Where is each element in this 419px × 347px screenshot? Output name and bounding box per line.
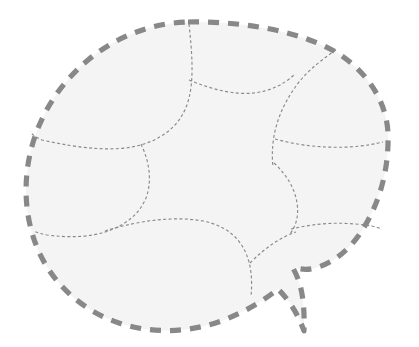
figure-canvas bbox=[0, 0, 419, 347]
region-diagram-svg bbox=[0, 0, 419, 347]
